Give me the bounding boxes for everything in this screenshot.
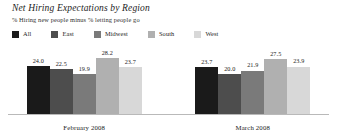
legend-label: Midwest <box>105 31 128 37</box>
legend-swatch-icon <box>148 31 155 38</box>
bar-rect[interactable] <box>119 67 142 114</box>
bar-rect[interactable] <box>195 67 218 114</box>
bar-rect[interactable] <box>27 66 50 114</box>
legend-label: All <box>23 31 31 37</box>
bar-value-label: 21.9 <box>247 62 258 68</box>
bar-rect[interactable] <box>241 71 264 114</box>
legend-item-west[interactable]: West <box>194 31 218 38</box>
legend-item-east[interactable]: East <box>51 31 73 38</box>
category-labels: February 2008March 2008 <box>0 116 337 133</box>
bars: 24.022.519.928.223.7 <box>0 47 169 114</box>
bar-all[interactable]: 23.7 <box>195 47 218 114</box>
bar-midwest[interactable]: 21.9 <box>241 47 264 114</box>
bar-value-label: 20.0 <box>224 66 235 72</box>
bar-south[interactable]: 28.2 <box>96 47 119 114</box>
bar-rect[interactable] <box>96 58 119 114</box>
x-axis-line <box>8 114 329 115</box>
legend-label: West <box>205 31 218 37</box>
legend-swatch-icon <box>94 31 101 38</box>
chart-title: Net Hiring Expectations by Region <box>12 3 150 13</box>
legend-swatch-icon <box>194 31 201 38</box>
bar-value-label: 23.9 <box>293 58 304 64</box>
bar-value-label: 19.9 <box>79 66 90 72</box>
bar-value-label: 24.0 <box>33 58 44 64</box>
bar-rect[interactable] <box>264 59 287 114</box>
bar-south[interactable]: 27.5 <box>264 47 287 114</box>
legend-label: East <box>62 31 73 37</box>
category-label: March 2008 <box>235 124 270 131</box>
legend-label: South <box>159 31 174 37</box>
bar-east[interactable]: 20.0 <box>218 47 241 114</box>
bar-rect[interactable] <box>73 74 96 114</box>
bar-value-label: 28.2 <box>102 50 113 56</box>
legend-swatch-icon <box>12 31 19 38</box>
legend-swatch-icon <box>51 31 58 38</box>
bar-rect[interactable] <box>218 74 241 114</box>
category-label: February 2008 <box>63 124 105 131</box>
plot-area: 24.022.519.928.223.723.720.021.927.523.9 <box>0 47 337 115</box>
legend-item-south[interactable]: South <box>148 31 174 38</box>
category-label-cell: March 2008 <box>169 116 337 133</box>
bar-west[interactable]: 23.9 <box>287 47 310 114</box>
bar-east[interactable]: 22.5 <box>50 47 73 114</box>
bar-group: 24.022.519.928.223.7 <box>0 47 169 114</box>
bar-groups: 24.022.519.928.223.723.720.021.927.523.9 <box>0 47 337 114</box>
category-label-cell: February 2008 <box>0 116 169 133</box>
bar-all[interactable]: 24.0 <box>27 47 50 114</box>
bar-midwest[interactable]: 19.9 <box>73 47 96 114</box>
bar-rect[interactable] <box>287 67 310 114</box>
legend-item-midwest[interactable]: Midwest <box>94 31 128 38</box>
chart-subtitle: % Hiring new people minus % letting peop… <box>12 16 140 23</box>
bar-value-label: 22.5 <box>56 61 67 67</box>
bar-value-label: 23.7 <box>125 59 136 65</box>
bar-group: 23.720.021.927.523.9 <box>169 47 337 114</box>
bar-rect[interactable] <box>50 69 73 114</box>
chart-legend: AllEastMidwestSouthWest <box>12 31 238 38</box>
bars: 23.720.021.927.523.9 <box>169 47 337 114</box>
legend-item-all[interactable]: All <box>12 31 31 38</box>
bar-value-label: 23.7 <box>201 59 212 65</box>
bar-value-label: 27.5 <box>270 51 281 57</box>
chart-container: Net Hiring Expectations by Region % Hiri… <box>0 0 337 133</box>
bar-west[interactable]: 23.7 <box>119 47 142 114</box>
